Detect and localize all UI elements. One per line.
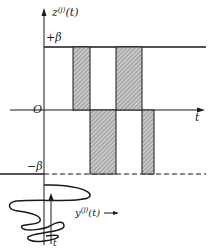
input-signal-arrow-icon [113, 211, 119, 215]
negative-pulse-2 [142, 110, 154, 174]
input-time-label: t [53, 238, 57, 248]
z-axis-arrow-icon [42, 8, 47, 16]
z-axis-label: z(j)(t) [51, 6, 78, 19]
relay-output-diagram: z(j)(t) +β O t −β y(j)(t) t [0, 0, 208, 248]
positive-pulse-2 [116, 47, 142, 110]
negative-pulse-1 [90, 110, 116, 174]
upper-level-label: +β [46, 31, 62, 44]
input-signal-label: y(j)(t) [74, 206, 100, 218]
input-time-arrow-icon [49, 193, 54, 200]
lower-level-label: −β [27, 160, 43, 173]
t-axis-label: t [195, 111, 200, 124]
origin-label: O [33, 103, 42, 116]
positive-pulse-1 [73, 47, 90, 110]
